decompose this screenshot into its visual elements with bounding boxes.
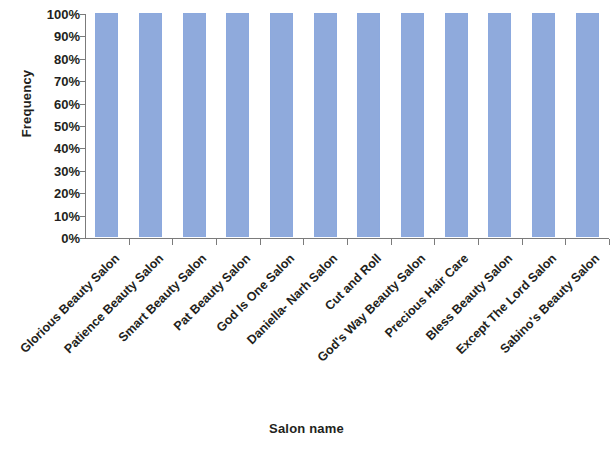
y-axis-tick-label: 30% — [22, 165, 80, 178]
bar — [314, 13, 337, 237]
y-axis-tick-label: 40% — [22, 142, 80, 155]
bar — [226, 13, 249, 237]
bar — [139, 13, 162, 237]
y-axis-tick-mark — [80, 171, 85, 172]
y-axis-tick-label: 90% — [22, 30, 80, 43]
y-axis-tick-label: 10% — [22, 210, 80, 223]
bar — [270, 13, 293, 237]
y-axis-tick-mark — [80, 36, 85, 37]
bar — [401, 13, 424, 237]
y-axis-tick-mark — [80, 59, 85, 60]
bar — [183, 13, 206, 237]
bar — [576, 13, 599, 237]
y-axis-tick-label: 50% — [22, 120, 80, 133]
y-axis-tick-mark — [80, 104, 85, 105]
bar — [357, 13, 380, 237]
bar-chart: Frequency 100%90%80%70%60%50%40%30%20%10… — [0, 0, 613, 450]
y-axis-tick-mark — [80, 216, 85, 217]
x-axis-title: Salon name — [0, 421, 613, 436]
bar — [488, 13, 511, 237]
y-axis-tick-mark — [80, 148, 85, 149]
bar — [445, 13, 468, 237]
y-axis-tick-label: 60% — [22, 98, 80, 111]
x-axis-category-labels: Glorious Beauty SalonPatience Beauty Sal… — [0, 238, 613, 408]
y-axis-line — [85, 14, 86, 239]
y-axis-tick-label: 80% — [22, 53, 80, 66]
y-axis-tick-labels: 100%90%80%70%60%50%40%30%20%10%0% — [22, 0, 80, 250]
y-axis-tick-mark — [80, 126, 85, 127]
y-axis-tick-label: 100% — [22, 8, 80, 21]
y-axis-tick-mark — [80, 14, 85, 15]
y-axis-tick-label: 20% — [22, 187, 80, 200]
y-axis-tick-mark — [80, 81, 85, 82]
y-axis-tick-label: 70% — [22, 75, 80, 88]
y-axis-tick-mark — [80, 193, 85, 194]
bar — [532, 13, 555, 237]
bar — [95, 13, 118, 237]
